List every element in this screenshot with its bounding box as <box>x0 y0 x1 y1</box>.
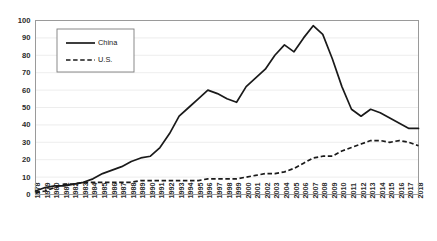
y-axis-tick-label: 70 <box>22 68 30 77</box>
x-axis-tick-label: 2001 <box>253 183 262 199</box>
chart-canvas: 0102030405060708090100 19781979198019811… <box>0 0 437 241</box>
legend-label-china: China <box>98 38 118 47</box>
x-axis-tick-label: 1984 <box>90 183 99 199</box>
y-axis-tick-label: 40 <box>22 120 30 129</box>
x-axis-tick-label: 1993 <box>177 183 186 199</box>
x-axis-tick-label: 2000 <box>244 183 253 199</box>
x-axis-tick-label: 1989 <box>138 183 147 199</box>
x-axis-tick-label: 2010 <box>339 183 348 199</box>
x-axis-tick-label: 1985 <box>100 183 109 199</box>
line-chart: 0102030405060708090100 19781979198019811… <box>0 0 437 241</box>
y-axis-tick-label: 0 <box>26 190 30 199</box>
x-axis-tick-label: 2009 <box>330 183 339 199</box>
x-axis-tick-labels: 1978197919801981198219831984198519861987… <box>33 183 425 199</box>
x-axis-tick-label: 1996 <box>205 183 214 199</box>
x-axis-tick-label: 1995 <box>196 183 205 199</box>
x-axis-tick-label: 2005 <box>292 183 301 199</box>
x-axis-tick-label: 2015 <box>387 183 396 199</box>
y-axis-tick-label: 80 <box>22 51 30 60</box>
legend-box <box>57 29 134 72</box>
x-axis-tick-label: 2006 <box>301 183 310 199</box>
y-axis-tick-label: 90 <box>22 33 30 42</box>
chart-legend: ChinaU.S. <box>57 29 134 72</box>
x-axis-tick-label: 2011 <box>349 183 358 199</box>
legend-label-us: U.S. <box>98 55 112 64</box>
x-axis-tick-label: 1994 <box>186 183 195 199</box>
x-axis-tick-label: 2017 <box>406 183 415 199</box>
x-axis-tick-label: 1992 <box>167 183 176 199</box>
x-axis-tick-label: 1998 <box>225 183 234 199</box>
y-axis-tick-label: 50 <box>22 103 30 112</box>
x-axis-tick-label: 2013 <box>368 183 377 199</box>
y-axis-tick-label: 20 <box>22 155 30 164</box>
x-axis-tick-label: 1986 <box>110 183 119 199</box>
x-axis-tick-label: 2018 <box>416 183 425 199</box>
x-axis-tick-label: 2016 <box>397 183 406 199</box>
x-axis-tick-label: 1999 <box>234 183 243 199</box>
x-axis-tick-label: 1991 <box>157 183 166 199</box>
x-axis-tick-label: 1997 <box>215 183 224 199</box>
x-axis-tick-label: 1987 <box>119 183 128 199</box>
x-axis-tick-label: 2014 <box>378 183 387 199</box>
y-axis-tick-label: 30 <box>22 138 30 147</box>
x-axis-tick-label: 2007 <box>311 183 320 199</box>
x-axis-tick-label: 1988 <box>129 183 138 199</box>
x-axis-tick-label: 2008 <box>320 183 329 199</box>
y-axis-tick-labels: 0102030405060708090100 <box>18 16 31 199</box>
y-axis-tick-label: 10 <box>22 173 30 182</box>
y-axis-tick-label: 60 <box>22 86 30 95</box>
x-axis-tick-label: 2003 <box>272 183 281 199</box>
x-axis-tick-label: 1990 <box>148 183 157 199</box>
x-axis-tick-label: 2002 <box>263 183 272 199</box>
y-axis-tick-label: 100 <box>18 16 31 25</box>
x-axis-tick-label: 1983 <box>81 183 90 199</box>
x-axis-tick-label: 2012 <box>359 183 368 199</box>
x-axis-tick-label: 2004 <box>282 183 291 199</box>
